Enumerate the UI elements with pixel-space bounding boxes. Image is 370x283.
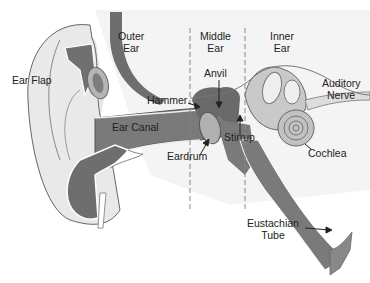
- inner-ear-line1: Inner: [270, 30, 294, 42]
- middle-ear-line2: Ear: [200, 42, 231, 54]
- label-eardrum: Eardrum: [167, 150, 207, 162]
- label-inner-ear: Inner Ear: [270, 30, 294, 54]
- ear-anatomy-diagram: Outer Ear Middle Ear Inner Ear Ear Flap …: [0, 0, 370, 283]
- label-eustachian-tube: Eustachian Tube: [247, 217, 299, 241]
- label-hammer: Hammer: [147, 94, 187, 106]
- outer-ear-line2: Ear: [118, 42, 144, 54]
- label-ear-flap: Ear Flap: [12, 74, 52, 86]
- label-cochlea: Cochlea: [308, 147, 347, 159]
- eustachian-line1: Eustachian: [247, 217, 299, 229]
- eustachian-line2: Tube: [247, 229, 299, 241]
- label-auditory-nerve: Auditory Nerve: [322, 77, 361, 101]
- label-middle-ear: Middle Ear: [200, 30, 231, 54]
- middle-ear-line1: Middle: [200, 30, 231, 42]
- auditory-nerve-line2: Nerve: [322, 89, 361, 101]
- label-outer-ear: Outer Ear: [118, 30, 144, 54]
- label-anvil: Anvil: [204, 67, 227, 79]
- auditory-nerve-line1: Auditory: [322, 77, 361, 89]
- cochlea-shape: [278, 110, 314, 146]
- label-ear-canal: Ear Canal: [112, 121, 159, 133]
- label-stirrup: Stirrup: [224, 131, 255, 143]
- ear-illustration: [0, 0, 370, 283]
- outer-ear-line1: Outer: [118, 30, 144, 42]
- inner-ear-line2: Ear: [270, 42, 294, 54]
